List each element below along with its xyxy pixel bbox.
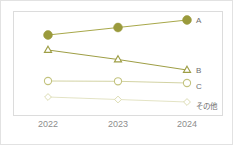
x-tick-2023: 2023 <box>108 119 128 129</box>
plot-area <box>13 11 223 116</box>
x-tick-2022: 2022 <box>38 119 58 129</box>
series-label-c: C <box>196 82 202 91</box>
x-axis: 2022 2023 2024 <box>13 119 223 135</box>
clipped-heading-strip: —— ——— —— <box>1 1 233 8</box>
series-label-a: A <box>196 16 201 25</box>
series-label-b: B <box>196 66 201 75</box>
x-tick-2024: 2024 <box>177 119 197 129</box>
clipped-heading-text: —— ——— —— <box>7 1 71 4</box>
chart-card: —— ——— —— <box>0 0 233 145</box>
series-label-sonota: その他 <box>196 100 217 111</box>
